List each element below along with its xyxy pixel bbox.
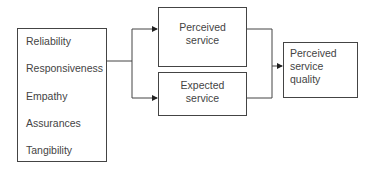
output-line3: quality [290, 73, 337, 86]
perceived-service-line2: service [179, 34, 226, 47]
expected-service-line2: service [181, 92, 225, 105]
perceived-service-box: Perceived service [158, 7, 247, 67]
perceived-service-quality-box: Perceived service quality [283, 42, 358, 98]
dimension-reliability: Reliability [26, 35, 71, 48]
dimension-empathy: Empathy [26, 90, 67, 103]
perceived-service-line1: Perceived [179, 21, 226, 34]
expected-service-line1: Expected [181, 79, 225, 92]
dimension-tangibility: Tangibility [26, 144, 72, 157]
output-line1: Perceived [290, 47, 337, 60]
service-dimensions-box: Reliability Responsiveness Empathy Assur… [17, 28, 107, 162]
dimension-assurances: Assurances [26, 117, 81, 130]
expected-service-box: Expected service [158, 72, 247, 116]
dimension-responsiveness: Responsiveness [26, 62, 103, 75]
output-line2: service [290, 60, 337, 73]
